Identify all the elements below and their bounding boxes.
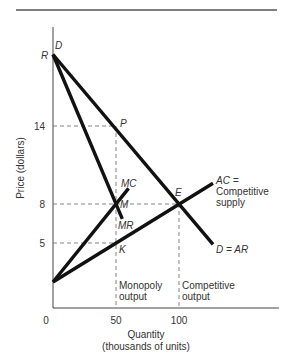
ac-label: AC = (215, 175, 239, 186)
point-label-r: R (41, 50, 48, 61)
monopoly-output-label: Monopoly (119, 280, 162, 291)
y-tick-label: 14 (34, 121, 46, 132)
y-tick-label: 5 (39, 238, 45, 249)
curves (53, 55, 213, 283)
x-tick-label: 100 (171, 315, 188, 326)
curve-mc (53, 188, 129, 282)
curve-label-mc: MC (121, 178, 137, 189)
x-tick-label: 0 (43, 315, 49, 326)
monopoly-diagram: 5 8 14 0 50 100 Price (dollars) Quantity… (0, 0, 292, 364)
point-label-m: M (120, 199, 129, 210)
y-tick-label: 8 (39, 199, 45, 210)
point-label-k: K (119, 244, 127, 255)
curve-d-ar (53, 55, 213, 245)
competitive-output-label-2: output (182, 291, 210, 302)
curve-mr (53, 55, 122, 219)
x-axis-subtitle: (thousands of units) (102, 341, 190, 352)
ac-label-competitive: Competitive (216, 186, 269, 197)
ac-label-supply: supply (216, 197, 245, 208)
x-axis-title: Quantity (127, 329, 164, 340)
point-label-e: E (175, 187, 182, 198)
competitive-output-label: Competitive (182, 280, 235, 291)
curve-label-mr: MR (118, 220, 134, 231)
y-axis-title: Price (dollars) (15, 137, 26, 199)
curve-ac-competitive-supply (53, 183, 213, 282)
demand-label: D = AR (216, 244, 248, 255)
x-tick-label: 50 (110, 315, 122, 326)
monopoly-output-label-2: output (119, 291, 147, 302)
point-label-d: D (55, 40, 62, 51)
point-label-p: P (120, 118, 127, 129)
